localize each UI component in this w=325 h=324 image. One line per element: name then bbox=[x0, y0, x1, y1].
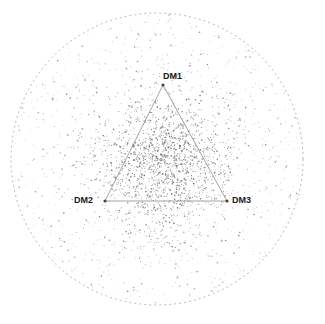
scatter-canvas bbox=[0, 0, 325, 324]
scatter-points-layer bbox=[15, 14, 301, 303]
simplex-vertex-dm2-marker bbox=[103, 199, 106, 202]
vertex-label-dm3: DM3 bbox=[232, 195, 251, 205]
simplex-vertex-dm1-marker bbox=[161, 83, 164, 86]
simplex-triangle-layer bbox=[103, 83, 228, 202]
simplex-vertex-dm3-marker bbox=[225, 199, 228, 202]
vertex-label-dm2: DM2 bbox=[74, 195, 93, 205]
vertex-label-dm1: DM1 bbox=[163, 71, 182, 81]
scatter-figure: DM1 DM2 DM3 bbox=[0, 0, 325, 324]
